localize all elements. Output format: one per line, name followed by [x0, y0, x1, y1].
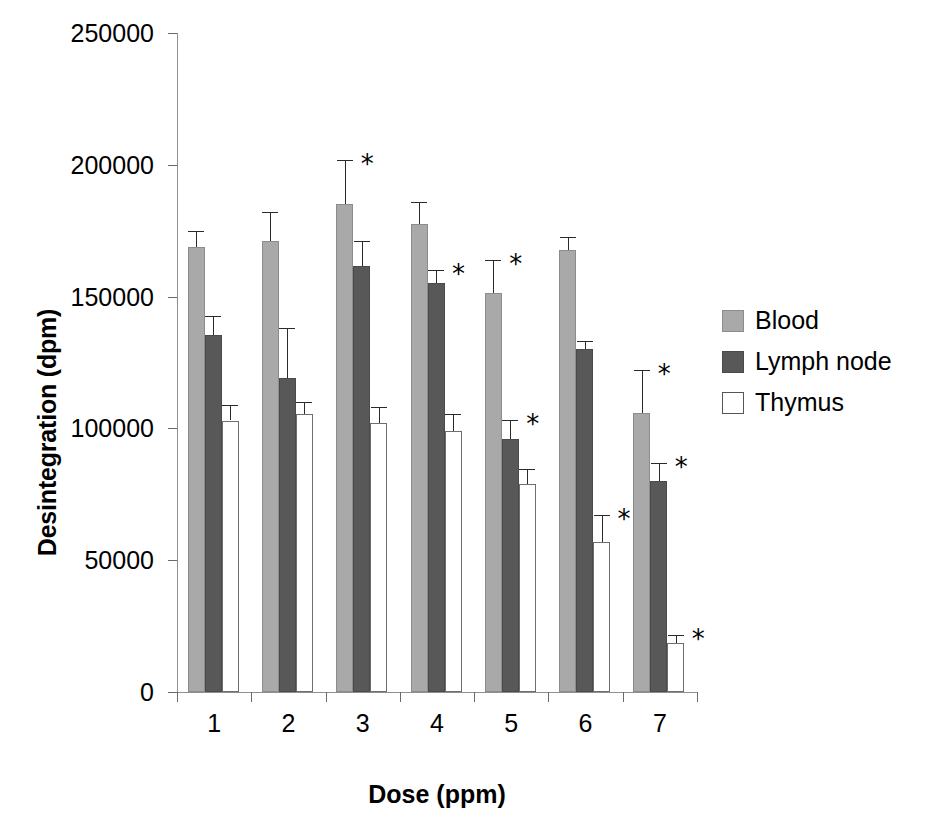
error-bar-stem: [436, 270, 437, 283]
bar-blood-dose-3: [336, 204, 353, 692]
error-bar-stem: [304, 402, 305, 414]
x-axis-tick: [474, 692, 475, 702]
error-bar-stem: [659, 463, 660, 481]
bar-thymus-dose-7: [667, 643, 684, 692]
error-bar-stem: [379, 407, 380, 423]
error-bar-cap: [262, 212, 278, 213]
error-bar-stem: [527, 469, 528, 483]
y-axis-tick-label: 0: [140, 678, 154, 707]
error-bar-cap: [296, 402, 312, 403]
y-axis-title: Desintegration (dpm): [33, 268, 62, 598]
bar-lymph-node-dose-6: [576, 349, 593, 692]
legend-item-blood: Blood: [722, 300, 892, 341]
error-bar-stem: [196, 231, 197, 247]
y-axis-tick-label: 150000: [71, 282, 154, 311]
x-axis-tick-label: 4: [430, 709, 444, 738]
significance-marker-blood-dose-3: *: [361, 151, 374, 177]
error-bar-cap: [411, 202, 427, 203]
error-bar-cap: [354, 241, 370, 242]
x-axis-tick: [400, 692, 401, 702]
significance-marker-blood-dose-7: *: [658, 361, 671, 387]
bar-blood-dose-2: [262, 241, 279, 692]
error-bar-cap: [445, 414, 461, 415]
x-axis-tick-label: 6: [579, 709, 593, 738]
bar-lymph-node-dose-3: [353, 266, 370, 692]
y-axis-tick: [168, 297, 177, 298]
bar-thymus-dose-6: [593, 542, 610, 692]
x-axis-tick-label: 2: [281, 709, 295, 738]
chart-legend: Blood Lymph node Thymus: [722, 300, 892, 423]
error-bar-cap: [371, 407, 387, 408]
y-axis-tick: [168, 428, 177, 429]
error-bar-cap: [205, 316, 221, 317]
error-bar-cap: [668, 635, 684, 636]
error-bar-cap: [519, 469, 535, 470]
error-bar-cap: [651, 463, 667, 464]
x-axis-tick-label: 3: [356, 709, 370, 738]
error-bar-cap: [560, 237, 576, 238]
error-bar-stem: [453, 414, 454, 431]
error-bar-stem: [676, 635, 677, 643]
plot-area: 050000100000150000200000250000 1234567 *…: [177, 33, 697, 692]
x-axis-tick-label: 1: [207, 709, 221, 738]
legend-swatch-lymph-node-icon: [722, 351, 744, 373]
y-axis-tick: [168, 560, 177, 561]
error-bar-stem: [585, 341, 586, 349]
error-bar-stem: [230, 405, 231, 421]
bar-blood-dose-7: [633, 413, 650, 692]
error-bar-cap: [222, 405, 238, 406]
y-axis-tick: [168, 165, 177, 166]
significance-marker-lymph-node-dose-5: *: [526, 411, 539, 437]
x-axis-line: [177, 692, 697, 693]
legend-swatch-blood-icon: [722, 310, 744, 332]
y-axis-tick-label: 100000: [71, 414, 154, 443]
error-bar-cap: [337, 160, 353, 161]
error-bar-stem: [568, 237, 569, 250]
y-axis-line: [177, 33, 178, 692]
y-axis-tick-label: 250000: [71, 19, 154, 48]
bar-lymph-node-dose-5: [502, 439, 519, 692]
legend-swatch-thymus-icon: [722, 392, 744, 414]
legend-item-thymus: Thymus: [722, 382, 892, 423]
bar-thymus-dose-5: [519, 484, 536, 692]
error-bar-stem: [362, 241, 363, 266]
x-axis-tick: [697, 692, 698, 702]
error-bar-stem: [287, 328, 288, 378]
error-bar-cap: [634, 370, 650, 371]
bar-lymph-node-dose-4: [428, 283, 445, 692]
error-bar-stem: [602, 515, 603, 541]
y-axis-tick: [168, 692, 177, 693]
error-bar-stem: [493, 260, 494, 293]
x-axis-tick: [623, 692, 624, 702]
error-bar-stem: [213, 316, 214, 334]
significance-marker-thymus-dose-7: *: [692, 626, 705, 652]
y-axis-tick-label-wrap: 200000: [168, 165, 169, 166]
bar-blood-dose-1: [188, 247, 205, 692]
x-axis-tick: [548, 692, 549, 702]
bar-thymus-dose-1: [222, 421, 239, 693]
error-bar-cap: [594, 515, 610, 516]
error-bar-stem: [270, 212, 271, 241]
x-axis-tick-label: 7: [653, 709, 667, 738]
y-axis-tick-label-wrap: 150000: [168, 297, 169, 298]
x-axis-tick: [251, 692, 252, 702]
legend-label-lymph-node: Lymph node: [755, 347, 892, 376]
y-axis-tick-label: 50000: [84, 546, 154, 575]
bar-thymus-dose-4: [445, 431, 462, 692]
error-bar-cap: [188, 231, 204, 232]
x-axis-tick: [326, 692, 327, 702]
error-bar-stem: [510, 420, 511, 438]
legend-label-blood: Blood: [755, 306, 819, 335]
y-axis-tick-label-wrap: 50000: [168, 560, 169, 561]
legend-item-lymph-node: Lymph node: [722, 341, 892, 382]
error-bar-cap: [502, 420, 518, 421]
error-bar-stem: [419, 202, 420, 224]
bar-thymus-dose-3: [370, 423, 387, 692]
legend-label-thymus: Thymus: [755, 388, 844, 417]
error-bar-cap: [577, 341, 593, 342]
x-axis-title: Dose (ppm): [177, 780, 697, 809]
bar-thymus-dose-2: [296, 414, 313, 692]
significance-marker-blood-dose-5: *: [509, 251, 522, 277]
bar-blood-dose-5: [485, 293, 502, 692]
error-bar-cap: [485, 260, 501, 261]
